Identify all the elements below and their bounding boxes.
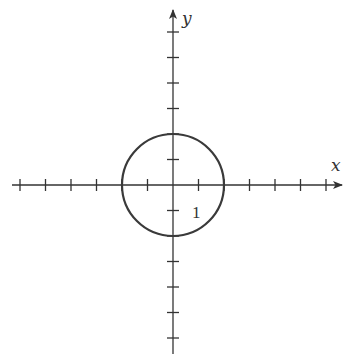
x-axis: x [12,155,342,191]
x-axis-label: x [331,155,341,175]
coordinate-plane: x y 1 [0,0,348,358]
y-axis: y [167,8,192,354]
unit-tick-label: 1 [192,203,201,222]
y-axis-label: y [181,8,192,28]
